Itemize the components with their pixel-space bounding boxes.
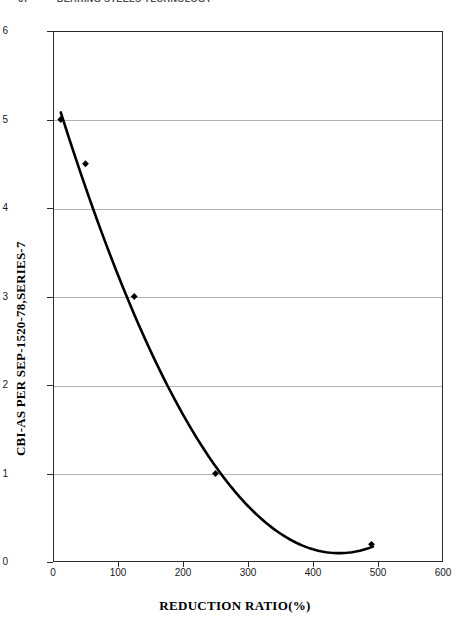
y-tick-label: 6 — [0, 26, 8, 36]
y-tick-mark — [47, 385, 53, 386]
chart-figure: CBI-AS PER SEP-1520-78,SERIES-7 REDUCTIO… — [0, 0, 470, 620]
x-tick-label: 300 — [228, 568, 268, 578]
y-tick-label: 1 — [0, 469, 8, 479]
y-tick-mark — [47, 31, 53, 32]
y-tick-label: 0 — [0, 557, 8, 567]
y-tick-mark — [47, 562, 53, 563]
x-tick-label: 200 — [163, 568, 203, 578]
y-tick-mark — [47, 208, 53, 209]
data-point-marker — [82, 160, 89, 167]
data-markers — [57, 116, 375, 548]
x-tick-mark — [248, 562, 249, 567]
x-tick-label: 500 — [358, 568, 398, 578]
y-tick-label: 3 — [0, 292, 8, 302]
y-tick-mark — [47, 120, 53, 121]
x-tick-mark — [183, 562, 184, 567]
data-curve-layer — [53, 31, 443, 562]
x-tick-mark — [313, 562, 314, 567]
x-tick-label: 400 — [293, 568, 333, 578]
y-tick-mark — [47, 297, 53, 298]
x-tick-label: 0 — [33, 568, 73, 578]
y-tick-label: 2 — [0, 380, 8, 390]
x-tick-mark — [118, 562, 119, 567]
y-tick-mark — [47, 474, 53, 475]
y-tick-label: 5 — [0, 115, 8, 125]
x-tick-label: 600 — [423, 568, 463, 578]
y-axis-title: CBI-AS PER SEP-1520-78,SERIES-7 — [13, 434, 29, 456]
x-tick-label: 100 — [98, 568, 138, 578]
x-tick-mark — [378, 562, 379, 567]
y-tick-label: 4 — [0, 203, 8, 213]
x-axis-title: REDUCTION RATIO(%) — [0, 598, 470, 614]
data-curve-path — [61, 112, 373, 553]
data-point-marker — [131, 293, 138, 300]
